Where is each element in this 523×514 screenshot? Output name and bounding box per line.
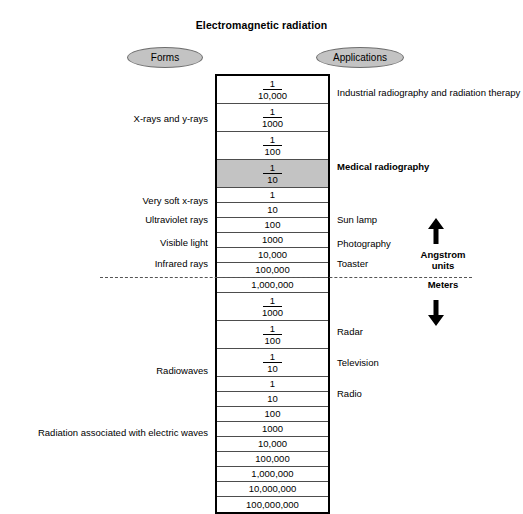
scale-row: 110 bbox=[217, 160, 328, 188]
forms-column: X-rays and y-raysVery soft x-raysUltravi… bbox=[0, 0, 208, 505]
fraction-numerator: 1 bbox=[263, 163, 282, 175]
fraction-numerator: 1 bbox=[263, 79, 282, 91]
scale-row: 1 bbox=[217, 377, 328, 392]
scale-fraction: 110,000 bbox=[258, 79, 287, 101]
scale-value: 1,000,000 bbox=[251, 469, 293, 479]
scale-fraction: 1100 bbox=[263, 324, 282, 346]
scale-row: 10,000,000 bbox=[217, 482, 328, 497]
scale-value: 100 bbox=[265, 409, 281, 419]
scale-row: 1,000,000 bbox=[217, 467, 328, 482]
form-label: Ultraviolet rays bbox=[145, 215, 208, 225]
arrow-down-icon bbox=[426, 300, 446, 326]
scale-value: 1 bbox=[270, 379, 275, 389]
fraction-denominator: 1000 bbox=[262, 307, 283, 318]
scale-row: 110,000 bbox=[217, 76, 328, 104]
scale-fraction: 11000 bbox=[262, 107, 283, 129]
scale-row: 100 bbox=[217, 218, 328, 233]
fraction-denominator: 10 bbox=[267, 363, 278, 374]
scale-row: 1000 bbox=[217, 422, 328, 437]
scale-fraction: 11000 bbox=[262, 296, 283, 318]
fraction-denominator: 1000 bbox=[262, 118, 283, 129]
angstrom-units-line1: Angstrom bbox=[398, 249, 488, 260]
angstrom-units-label: Angstrom units bbox=[398, 249, 488, 271]
scale-value: 10 bbox=[267, 394, 278, 404]
scale-row: 1100 bbox=[217, 321, 328, 349]
application-label: Radio bbox=[337, 389, 362, 399]
scale-value: 1,000,000 bbox=[251, 280, 293, 290]
scale-row: 10,000 bbox=[217, 437, 328, 452]
scale-row: 110 bbox=[217, 349, 328, 377]
scale-fraction: 1100 bbox=[263, 135, 282, 157]
scale-fraction: 110 bbox=[263, 163, 282, 185]
form-label: Radiation associated with electric waves bbox=[38, 428, 208, 438]
scale-value: 100,000 bbox=[255, 265, 289, 275]
fraction-numerator: 1 bbox=[263, 352, 282, 364]
scale-value: 10,000,000 bbox=[249, 484, 297, 494]
scale-row: 11000 bbox=[217, 293, 328, 321]
form-label: Infrared rays bbox=[155, 259, 208, 269]
form-label: Visible light bbox=[160, 238, 208, 248]
form-label: X-rays and y-rays bbox=[134, 114, 208, 124]
scale-row: 11000 bbox=[217, 104, 328, 132]
scale-value: 10 bbox=[267, 205, 278, 215]
fraction-numerator: 1 bbox=[263, 135, 282, 147]
scale-row: 1 bbox=[217, 188, 328, 203]
fraction-numerator: 1 bbox=[263, 324, 282, 336]
fraction-denominator: 100 bbox=[265, 146, 281, 157]
form-label: Very soft x-rays bbox=[143, 196, 208, 206]
application-label: Sun lamp bbox=[337, 215, 377, 225]
scale-row: 1000 bbox=[217, 233, 328, 248]
units-annotation: Angstrom units Meters bbox=[398, 218, 488, 328]
application-label: Toaster bbox=[337, 259, 368, 269]
scale-row: 10 bbox=[217, 203, 328, 218]
fraction-denominator: 10 bbox=[267, 174, 278, 185]
scale-row: 1100 bbox=[217, 132, 328, 160]
scale-row: 100,000 bbox=[217, 452, 328, 467]
scale-value: 1 bbox=[270, 190, 275, 200]
scale-value: 1000 bbox=[262, 424, 283, 434]
application-label: Medical radiography bbox=[337, 162, 429, 172]
fraction-numerator: 1 bbox=[263, 107, 282, 119]
scale-value: 1000 bbox=[262, 235, 283, 245]
fraction-denominator: 100 bbox=[265, 335, 281, 346]
form-label: Radiowaves bbox=[156, 366, 208, 376]
fraction-denominator: 10,000 bbox=[258, 90, 287, 101]
scale-value: 10,000 bbox=[258, 250, 287, 260]
application-label: Radar bbox=[337, 327, 363, 337]
angstrom-units-line2: units bbox=[398, 260, 488, 271]
scale-value: 10,000 bbox=[258, 439, 287, 449]
fraction-numerator: 1 bbox=[263, 296, 282, 308]
scale-row: 100 bbox=[217, 407, 328, 422]
scale-value: 100,000 bbox=[255, 454, 289, 464]
scale-row: 1,000,000 bbox=[217, 278, 328, 293]
application-label: Industrial radiography and radiation the… bbox=[337, 88, 520, 98]
arrow-up-icon bbox=[426, 218, 446, 244]
scale-value: 100 bbox=[265, 220, 281, 230]
scale-row: 100,000,000 bbox=[217, 497, 328, 512]
scale-value: 100,000,000 bbox=[246, 500, 299, 510]
application-label: Photography bbox=[337, 239, 391, 249]
scale-row: 100,000 bbox=[217, 263, 328, 278]
meters-label: Meters bbox=[398, 279, 488, 290]
scale-row: 10,000 bbox=[217, 248, 328, 263]
scale-row: 10 bbox=[217, 392, 328, 407]
wavelength-scale-table: 110,000110001100110110100100010,000100,0… bbox=[215, 74, 330, 514]
scale-fraction: 110 bbox=[263, 352, 282, 374]
application-label: Television bbox=[337, 358, 379, 368]
